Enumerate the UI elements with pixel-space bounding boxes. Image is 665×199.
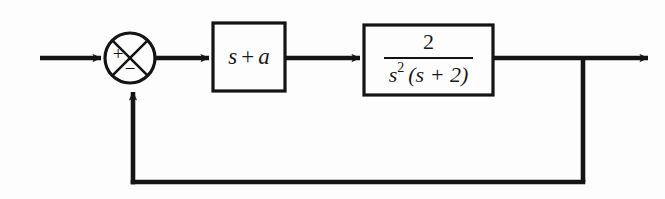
controller-variable: s	[228, 44, 237, 69]
plant-denominator-exponent: 2	[397, 60, 404, 75]
plant-denominator-base: s	[389, 62, 398, 87]
plant-block: 2 s2(s + 2)	[364, 25, 493, 95]
controller-operator: +	[241, 44, 254, 69]
summing-junction-minus-sign: −	[125, 58, 136, 79]
block-diagram-svg: + − s+a 2 s2(s + 2)	[0, 0, 665, 199]
plant-denominator-factor: (s + 2)	[408, 62, 468, 87]
block-diagram-canvas: + − s+a 2 s2(s + 2)	[0, 0, 665, 199]
summing-junction-plus-sign: +	[113, 43, 124, 64]
plant-numerator: 2	[423, 29, 434, 54]
feedback-path	[131, 56, 586, 184]
controller-block-label: s+a	[228, 44, 269, 69]
controller-block: s+a	[213, 23, 285, 91]
summing-junction: + −	[105, 33, 155, 83]
controller-parameter: a	[258, 44, 270, 69]
